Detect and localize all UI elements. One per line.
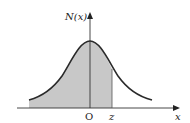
x-axis-label: x: [175, 111, 181, 122]
y-axis-arrow-icon: [87, 12, 93, 19]
z-label: z: [108, 111, 115, 122]
y-axis-label: N(x): [64, 11, 87, 22]
shaded-area: [29, 41, 112, 108]
origin-label: O: [85, 111, 93, 122]
normal-distribution-diagram: N(x) O z x: [0, 0, 190, 123]
